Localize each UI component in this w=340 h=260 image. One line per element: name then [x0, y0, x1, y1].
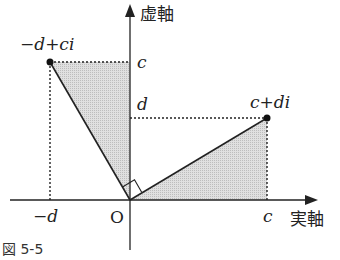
point-neg-d-plus-ci [47, 59, 54, 66]
real-axis-label: 実軸 [290, 209, 324, 229]
label-neg-d-plus-ci: −d+ci [20, 34, 74, 54]
complex-plane-diagram: −d+ci c+di c d −d c O 虚軸 実軸 図 5-5 [0, 0, 340, 260]
real-axis-arrow-icon [305, 195, 318, 205]
point-c-plus-di [264, 115, 271, 122]
imag-axis-arrow-icon [125, 4, 135, 17]
figure-caption: 図 5-5 [2, 241, 43, 257]
imag-axis-label: 虚軸 [140, 4, 174, 24]
label-c-plus-di: c+di [250, 92, 290, 112]
origin-label: O [110, 207, 124, 227]
tick-label-y-d: d [137, 94, 148, 114]
tick-label-y-c: c [137, 52, 147, 72]
tick-label-x-c: c [263, 206, 273, 226]
tick-label-x-neg-d: −d [33, 206, 58, 226]
